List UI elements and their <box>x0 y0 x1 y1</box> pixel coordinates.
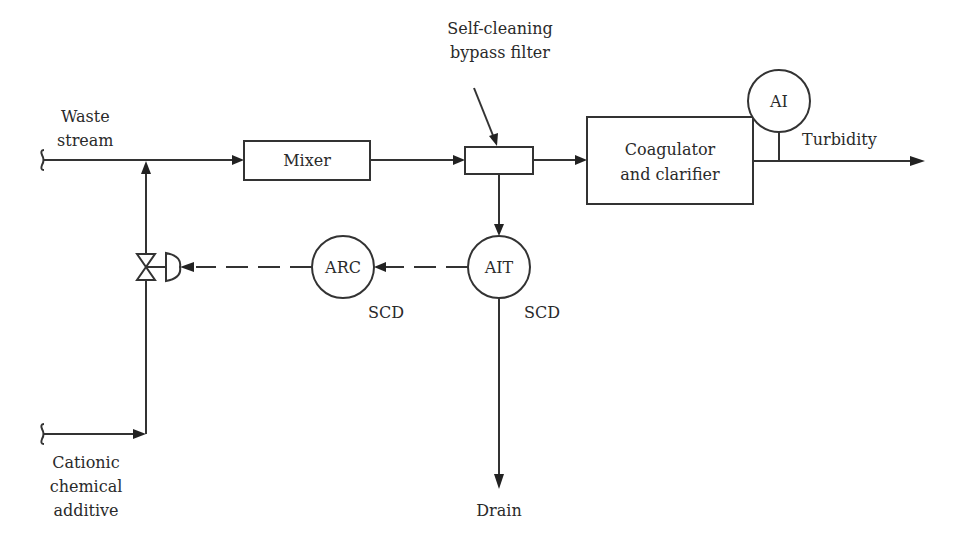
valve-lower-triangle-icon <box>137 267 155 280</box>
arrow-icon <box>232 155 244 165</box>
arrow-icon <box>489 133 498 146</box>
mixer-label: Mixer <box>283 151 331 170</box>
process-flow-diagram: Waste stream Mixer Self-cleaning bypass … <box>0 0 954 549</box>
ai-tag: AI <box>769 92 788 111</box>
ai-instrument: AI <box>748 70 810 161</box>
arc-tag: ARC <box>324 258 361 277</box>
additive-label-2: chemical <box>50 477 123 496</box>
arrow-icon <box>494 224 504 236</box>
arc-note: SCD <box>368 303 404 322</box>
control-valve <box>137 253 180 281</box>
pipe-break-icon <box>41 424 44 444</box>
filter-label-1: Self-cleaning <box>447 19 552 38</box>
arrow-icon <box>453 155 465 165</box>
bypass-filter: Self-cleaning bypass filter <box>447 19 552 174</box>
filter-label-2: bypass filter <box>450 43 550 62</box>
cationic-additive-input: Cationic chemical additive <box>41 161 151 520</box>
coagulator-box <box>587 117 753 204</box>
waste-stream-input: Waste stream <box>41 107 244 170</box>
additive-label-3: additive <box>53 501 118 520</box>
arrow-icon <box>575 155 587 165</box>
waste-stream-label-1: Waste <box>61 107 110 126</box>
arrow-icon <box>180 262 194 272</box>
coagulator-label-2: and clarifier <box>620 165 720 184</box>
additive-label-1: Cationic <box>52 453 119 472</box>
pipe-break-icon <box>41 150 44 170</box>
filter-pointer-line <box>474 88 494 138</box>
arc-controller: ARC SCD <box>312 236 404 322</box>
turbidity-label: Turbidity <box>802 130 877 149</box>
coagulator-clarifier: Coagulator and clarifier <box>587 117 753 204</box>
arrow-icon <box>141 161 151 174</box>
filter-box <box>465 147 533 174</box>
arrow-icon <box>910 156 925 166</box>
drain-label: Drain <box>476 501 521 520</box>
mixer: Mixer <box>244 141 370 180</box>
arrow-icon <box>133 429 146 439</box>
ait-instrument: AIT SCD <box>468 236 560 322</box>
diaphragm-actuator-icon <box>166 253 180 281</box>
arrow-icon <box>374 262 386 272</box>
ait-note: SCD <box>524 303 560 322</box>
valve-upper-triangle-icon <box>137 254 155 267</box>
arrow-icon <box>494 474 504 489</box>
coagulator-label-1: Coagulator <box>625 140 716 159</box>
ait-tag: AIT <box>484 258 514 277</box>
waste-stream-label-2: stream <box>57 131 113 150</box>
